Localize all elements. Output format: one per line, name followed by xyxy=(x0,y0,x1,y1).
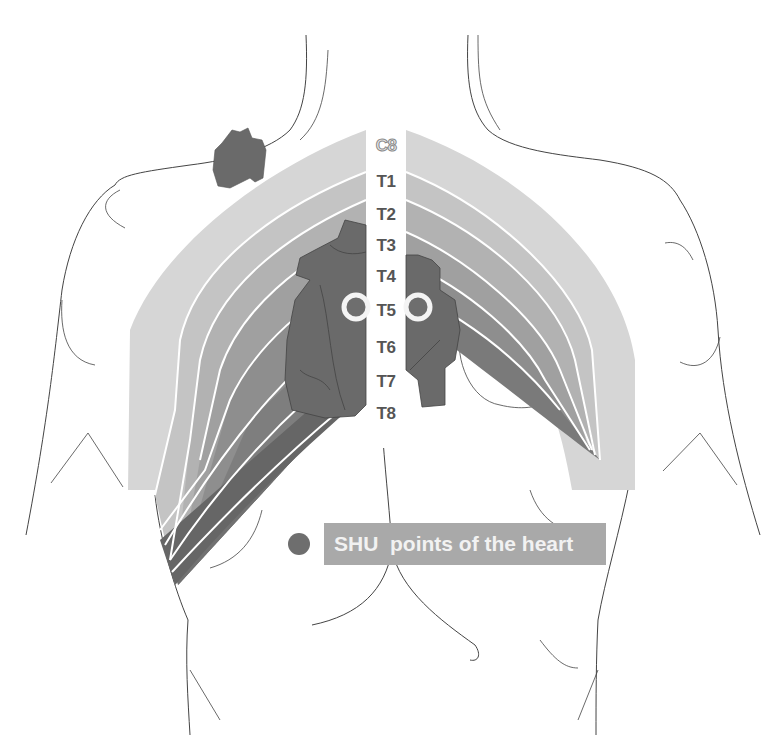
vertebra-label-t8: T8 xyxy=(366,404,406,424)
shu-point-legend-icon xyxy=(288,533,310,555)
vertebra-label-t4: T4 xyxy=(366,267,406,287)
legend-text: SHU points of the heart xyxy=(334,532,573,556)
small-heart-icon xyxy=(213,128,266,188)
vertebra-label-t7: T7 xyxy=(366,372,406,392)
vertebra-label-c8: C8 xyxy=(366,136,406,156)
shu-point-left xyxy=(344,295,368,319)
dermatome-diagram: C8 T1 T2 T3 T4 T5 T6 T7 T8 SHU points of… xyxy=(0,0,773,735)
vertebra-label-t6: T6 xyxy=(366,338,406,358)
legend: SHU points of the heart xyxy=(288,523,606,565)
vertebra-label-t5: T5 xyxy=(366,301,406,321)
shu-point-right xyxy=(406,295,430,319)
vertebra-label-t1: T1 xyxy=(366,172,406,192)
vertebra-label-t3: T3 xyxy=(366,236,406,256)
vertebra-label-t2: T2 xyxy=(366,205,406,225)
legend-label-box: SHU points of the heart xyxy=(324,523,606,565)
